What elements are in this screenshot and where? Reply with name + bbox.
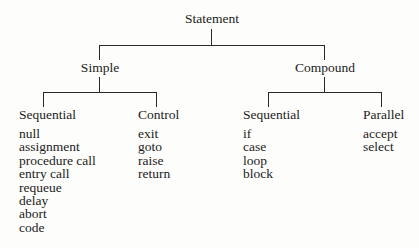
list-item: assignment [19,140,96,153]
connector-to-simple-sequential [43,92,44,107]
connector-to-parallel [381,92,382,107]
connector-root-bar [99,45,325,46]
connector-to-compound-sequential [268,92,269,107]
list-item: case [243,140,273,153]
list-item: block [243,167,273,180]
connector-to-control [156,92,157,107]
list-item: code [19,221,96,234]
node-simple: Simple [81,61,119,75]
list-item: procedure call [19,154,96,167]
connector-compound-stem [324,77,325,92]
node-simple-sequential: Sequential [19,108,76,122]
connector-compound-bar [268,92,382,93]
connector-simple-bar [43,92,157,93]
list-item: return [138,167,170,180]
list-item: delay [19,194,96,207]
parallel-list: accept select [363,127,397,154]
list-item: loop [243,154,273,167]
list-item: null [19,127,96,140]
node-control: Control [138,108,179,122]
simple-sequential-list: null assignment procedure call entry cal… [19,127,96,234]
node-compound: Compound [295,61,355,75]
list-item: select [363,140,397,153]
list-item: requeue [19,181,96,194]
node-parallel: Parallel [363,108,404,122]
connector-simple-stem [99,77,100,92]
list-item: if [243,127,273,140]
compound-sequential-list: if case loop block [243,127,273,181]
list-item: exit [138,127,170,140]
connector-to-simple [99,45,100,60]
control-list: exit goto raise return [138,127,170,181]
list-item: goto [138,140,170,153]
node-compound-sequential: Sequential [243,108,300,122]
connector-root-stem [211,29,212,45]
list-item: accept [363,127,397,140]
list-item: entry call [19,167,96,180]
list-item: raise [138,154,170,167]
list-item: abort [19,207,96,220]
root-node-statement: Statement [185,12,239,26]
connector-to-compound [324,45,325,60]
